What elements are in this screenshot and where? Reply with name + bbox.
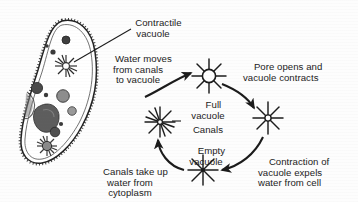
stage-full-vacuole xyxy=(192,59,226,93)
label-canals-take-up: Canals take up water from cytoplasm xyxy=(78,157,182,202)
granule-b xyxy=(50,49,55,54)
canals-vacuole-lumen xyxy=(158,120,163,125)
protozoan-cell xyxy=(21,20,96,163)
label-pore-opens: Pore opens and vacuole contracts xyxy=(243,52,353,94)
contracting-vacuole-lumen xyxy=(265,115,271,121)
label-empty-vacuole: Empty vacuole xyxy=(180,136,232,178)
food-vacuole-4 xyxy=(62,36,70,44)
stage-canals-vacuole xyxy=(145,107,175,137)
contractile-vacuole-figure: Contractile vacuole Water moves from can… xyxy=(0,0,358,202)
micronucleus xyxy=(31,82,42,93)
cell-contractile-vacuole-lower xyxy=(37,136,57,156)
label-contraction-expels: Contraction of vacuole expels water from… xyxy=(258,147,358,199)
full-vacuole-lumen xyxy=(202,69,215,82)
stage-contracting-vacuole xyxy=(253,102,283,134)
granule-a xyxy=(44,93,48,97)
food-vacuole-2 xyxy=(68,107,77,116)
label-water-moves: Water moves from canals to vacuole xyxy=(100,44,176,96)
cell-contractile-vacuole-upper xyxy=(55,55,77,77)
food-vacuole-1 xyxy=(57,90,70,103)
food-vacuole-3 xyxy=(50,127,60,137)
granule-d xyxy=(59,122,63,126)
granule-c xyxy=(45,44,48,47)
